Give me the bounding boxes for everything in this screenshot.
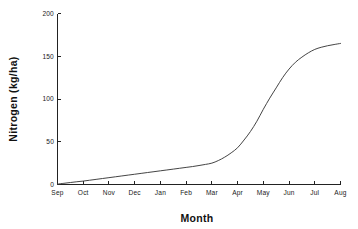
x-axis-tick-labels: SepOctNovDecJanFebMarAprMayJunJulAug bbox=[51, 189, 346, 197]
y-tick-label: 100 bbox=[42, 95, 54, 102]
y-tick-label: 0 bbox=[50, 181, 54, 188]
x-tick-label: Sep bbox=[51, 189, 63, 197]
x-tick-label: Feb bbox=[180, 189, 192, 196]
x-tick-label: Jan bbox=[155, 189, 166, 196]
data-series-group bbox=[58, 43, 341, 184]
x-axis-group: SepOctNovDecJanFebMarAprMayJunJulAug bbox=[51, 181, 346, 197]
nitrogen-curve bbox=[58, 43, 341, 184]
x-tick-label: Jun bbox=[283, 189, 294, 196]
x-tick-label: Nov bbox=[103, 189, 116, 196]
chart-canvas: 050100150200 SepOctNovDecJanFebMarAprMay… bbox=[0, 0, 358, 229]
y-axis-group: 050100150200 bbox=[42, 10, 61, 188]
x-tick-label: May bbox=[257, 189, 271, 197]
x-tick-label: Aug bbox=[334, 189, 346, 197]
x-tick-label: Apr bbox=[232, 189, 243, 197]
x-tick-label: Mar bbox=[206, 189, 219, 196]
y-tick-label: 150 bbox=[42, 53, 54, 60]
nitrogen-chart: 050100150200 SepOctNovDecJanFebMarAprMay… bbox=[0, 0, 358, 229]
x-axis-title: Month bbox=[181, 212, 214, 224]
y-tick-label: 200 bbox=[42, 10, 54, 17]
y-tick-label: 50 bbox=[46, 138, 54, 145]
y-axis-tick-labels: 050100150200 bbox=[42, 10, 54, 188]
x-tick-label: Oct bbox=[78, 189, 89, 196]
x-tick-label: Dec bbox=[129, 189, 142, 196]
y-axis-title: Nitrogen (kg/ha) bbox=[7, 56, 19, 141]
x-tick-label: Jul bbox=[310, 189, 319, 196]
